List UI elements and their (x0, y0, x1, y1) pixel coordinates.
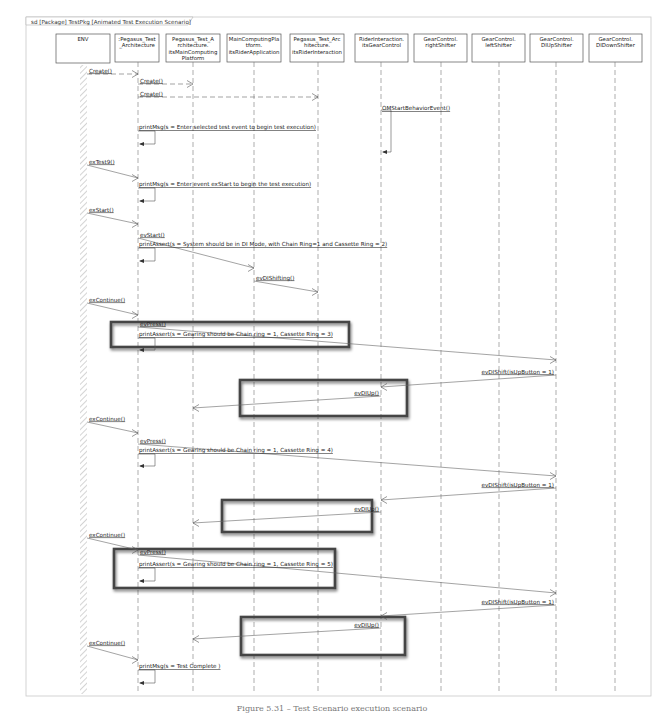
lifeline-label: tform. (246, 42, 263, 48)
message: exContinue() (87, 416, 138, 437)
message-label: exStart() (89, 207, 114, 213)
message: printMsg(s = Enter event exStart to begi… (138, 181, 311, 203)
message: printAssert(s = System should be in DI M… (138, 241, 387, 263)
message: exContinue() (87, 297, 138, 319)
message-label: evDIShift(isUpButton = 1) (482, 482, 554, 489)
lifeline-label: Platform (182, 55, 205, 61)
lifeline-arch: :Pegasus_Test_Architecture (115, 34, 159, 694)
message-label: evDIUp() (354, 390, 379, 397)
message-label: evDIShift(isUpButton = 1) (482, 369, 554, 376)
message-label: Create() (140, 91, 163, 97)
lifeline-label: itsGearControl (362, 42, 401, 48)
lifeline-label: DIUpShifter (541, 42, 573, 49)
lifeline-didown: GearControl.DIDownShifter (589, 34, 642, 694)
message: Create() (87, 68, 138, 78)
message-label: evDIShift(isUpButton = 1) (482, 599, 554, 606)
message: evPress() (138, 321, 556, 364)
highlight-box (222, 500, 372, 532)
message-label: evDIUp() (354, 506, 379, 513)
lifeline-left: GearControl.leftShifter (472, 34, 525, 694)
message-label: printAssert(s = Gearing should be Chain … (139, 447, 333, 454)
message-label: exTest9() (89, 159, 115, 165)
lifeline-label: GearControl. (423, 36, 457, 42)
message: evStart() (138, 232, 254, 272)
lifeline-label: leftShifter (485, 42, 512, 48)
message: exStart() (87, 207, 138, 228)
message-label: evPress() (140, 549, 166, 555)
message: printAssert(s = Gearing should be Chain … (138, 447, 333, 468)
message: exContinue() (87, 640, 138, 664)
lifelines: ENV:Pegasus_Test_ArchitecturePegasus_Tes… (56, 34, 642, 694)
message-label: exContinue() (89, 640, 125, 646)
message-label: printMsg(s = Enter event exStart to begi… (139, 181, 311, 188)
diagram-frame: sd [Package] TestPkg [Animated Test Exec… (26, 17, 651, 696)
messages: Create()Create()Create()OMStartBehaviorE… (87, 68, 556, 686)
highlight-box (241, 617, 405, 655)
message-label: evPress() (140, 321, 166, 327)
message-label: exContinue() (89, 532, 125, 538)
message-label: printAssert(s = Gearing should be Chain … (139, 331, 333, 338)
message: evDIUp() (193, 622, 381, 643)
lifeline-label: itsRiderApplication (229, 49, 280, 56)
message: printMsg(s = Test Complete ) (138, 663, 221, 685)
lifeline-label: GearControl. (598, 36, 632, 42)
highlight-boxes (111, 322, 407, 655)
lifeline-label: rchitecture. (177, 42, 208, 48)
message: exTest9() (87, 159, 138, 182)
message: evDIUp() (193, 390, 381, 412)
message: printAssert(s = Gearing should be Chain … (138, 561, 333, 583)
message-label: printAssert(s = Gearing should be Chain … (139, 561, 333, 568)
highlight-box (114, 549, 335, 588)
lifeline-label: _Architecture (118, 42, 155, 49)
lifeline-diup: GearControl.DIUpShifter (530, 34, 583, 694)
lifeline-riderapp: MainComputingPlatform.itsRiderApplicatio… (227, 34, 281, 694)
env-hatched-bar (80, 65, 87, 694)
message-label: evDIUp() (354, 622, 379, 629)
lifeline-gearctrl: RiderInteraction.itsGearControl (355, 34, 408, 694)
lifeline-label: GearControl. (481, 36, 515, 42)
lifeline-right: GearControl.rightShifter (414, 34, 467, 694)
message: evDIShift(isUpButton = 1) (381, 482, 556, 504)
message: Create() (138, 91, 318, 101)
message-label: evPress() (140, 438, 166, 444)
lifeline-riderint: Pegasus_Test_Architecture.itsRiderIntera… (290, 34, 344, 694)
lifeline-label: DIDownShifter (596, 42, 636, 48)
message: OMStartBehaviorEvent() (381, 105, 450, 154)
message: printMsg(s = Enter selected test event t… (138, 124, 316, 146)
message: evPress() (138, 438, 556, 480)
lifeline-label: hitecture. (304, 42, 330, 48)
message-label: printMsg(s = Enter selected test event t… (139, 124, 316, 131)
lifeline-env: ENV (56, 34, 110, 694)
message-label: printAssert(s = System should be in DI M… (139, 241, 387, 248)
message: evDIShift(isUpButton = 1) (381, 599, 556, 620)
lifeline-label: RiderInteraction. (359, 36, 404, 42)
message-label: evStart() (140, 232, 165, 238)
highlight-box (240, 380, 407, 416)
lifeline-mcp: Pegasus_Test_Architecture.itsMainComputi… (166, 34, 220, 694)
message-label: evDIShifting() (256, 275, 294, 282)
message-label: OMStartBehaviorEvent() (382, 105, 450, 111)
message-label: Create() (140, 78, 163, 84)
lifeline-label: GearControl. (539, 36, 573, 42)
message-label: printMsg(s = Test Complete ) (139, 663, 221, 670)
message: evDIShifting() (254, 275, 318, 296)
lifeline-label: rightShifter (425, 42, 456, 49)
message: Create() (138, 78, 193, 88)
message-label: Create() (89, 68, 112, 74)
message-label: exContinue() (89, 297, 125, 303)
figure-caption: Figure 5.31 – Test Scenario execution sc… (0, 704, 664, 713)
sequence-diagram: sd [Package] TestPkg [Animated Test Exec… (0, 0, 664, 714)
lifeline-label: ENV (77, 36, 88, 42)
message: printAssert(s = Gearing should be Chain … (138, 331, 333, 352)
frame-title: sd [Package] TestPkg [Animated Test Exec… (31, 19, 191, 26)
lifeline-label: itsRiderInteraction (292, 49, 342, 55)
message-label: exContinue() (89, 416, 125, 422)
